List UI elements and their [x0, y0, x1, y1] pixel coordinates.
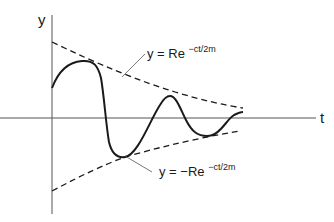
upper-annotation-leader — [122, 54, 145, 77]
lower-envelope-curve — [52, 131, 240, 191]
lower-annotation-leader — [125, 156, 152, 172]
upper-envelope-prefix: y = Re — [147, 46, 185, 61]
y-axis-label: y — [38, 11, 46, 28]
damped-oscillation-diagram: y t y = Re −ct/2m y = −Re −ct/2m — [0, 0, 334, 222]
lower-envelope-prefix: y = −Re — [159, 164, 205, 179]
lower-envelope-exponent: −ct/2m — [208, 162, 235, 172]
upper-envelope-label: y = Re −ct/2m — [147, 44, 216, 61]
damped-oscillation-curve — [52, 61, 243, 157]
lower-envelope-label: y = −Re −ct/2m — [159, 162, 235, 179]
upper-envelope-exponent: −ct/2m — [189, 44, 216, 54]
t-axis-label: t — [320, 109, 325, 126]
